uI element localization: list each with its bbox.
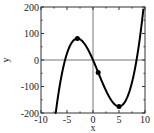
inflection-point-marker [96,70,101,75]
y-tick-labels: -200-1000100200 [21,2,39,119]
y-tick-label: 200 [24,2,39,13]
y-tick-label: -200 [21,108,39,119]
x-tick-label: -5 [63,114,71,125]
y-axis-label: y [0,58,11,63]
y-tick-label: 100 [24,28,39,39]
y-tick-label: -100 [21,81,39,92]
x-tick-label: 5 [117,114,122,125]
local-minimum-marker [117,104,122,109]
cubic-function-chart: -10-50510 -200-1000100200 x y [0,0,154,133]
function-curve [55,9,143,113]
local-maximum-marker [75,36,80,41]
x-axis-label: x [91,122,96,133]
y-tick-label: 0 [34,55,39,66]
x-tick-label: 10 [140,114,150,125]
point-markers [75,36,122,109]
